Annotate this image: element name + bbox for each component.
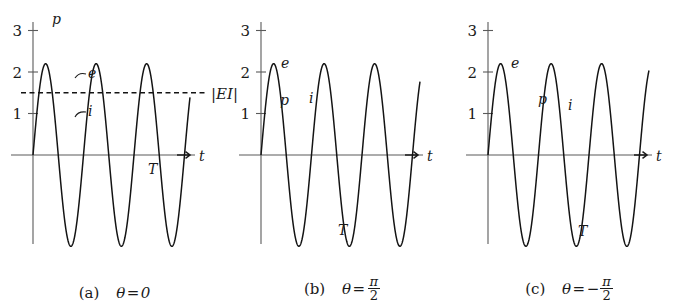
- y-tick-label: 1: [467, 105, 477, 123]
- panel-b-caption-index: (b): [304, 280, 325, 298]
- curve-label-i: i: [568, 97, 572, 113]
- period-label-T: T: [338, 222, 349, 238]
- y-tick-label: 2: [12, 64, 22, 82]
- y-tick-label: 2: [240, 64, 250, 82]
- panel-c-theta-numerator: π: [600, 275, 613, 289]
- curve-label-i: i: [88, 103, 92, 119]
- curve-label-p: p: [52, 11, 61, 27]
- panel-a-caption-index: (a): [79, 284, 100, 302]
- y-tick-label: 3: [467, 22, 477, 40]
- panel-a-caption: (a) θ = 0: [0, 284, 229, 302]
- power-waveform-figure: t123|EI|peiT (a) θ = 0 t123epiT (b) θ = …: [0, 0, 686, 308]
- panel-c-theta-sign: −: [587, 280, 600, 298]
- t-axis-label: t: [199, 148, 205, 164]
- t-axis-arrow-icon: [634, 152, 647, 159]
- y-tick-label: 1: [12, 105, 22, 123]
- panel-b-theta-fraction: π2: [368, 275, 381, 303]
- power-shaded-area: [0, 0, 229, 262]
- panel-c-caption-index: (c): [525, 280, 545, 298]
- t-axis-arrow-icon: [405, 152, 418, 159]
- panel-b-caption: (b) θ = π2: [228, 275, 457, 303]
- panel-b-caption-theta: θ = π2: [342, 280, 381, 298]
- panel-c-caption: (c) θ = −π2: [455, 275, 684, 303]
- period-label-T: T: [578, 223, 589, 239]
- period-label-T: T: [148, 161, 159, 177]
- curve-label-e: e: [511, 55, 519, 71]
- y-tick-label: 3: [240, 22, 250, 40]
- t-axis-arrow-icon: [177, 152, 190, 159]
- panel-a-theta-value: 0: [141, 284, 151, 302]
- panel-b-theta-denominator: 2: [368, 289, 381, 302]
- curve-label-p: p: [280, 92, 289, 108]
- t-axis-label: t: [656, 148, 662, 164]
- y-tick-label: 3: [12, 22, 22, 40]
- panel-c-theta-fraction: π2: [600, 275, 613, 303]
- panel-c-theta-denominator: 2: [600, 289, 613, 302]
- panel-a-plot: t123|EI|peiT: [0, 0, 229, 262]
- curve-label-e: e: [88, 65, 96, 81]
- panel-a: t123|EI|peiT (a) θ = 0: [0, 0, 229, 308]
- curve-label-leader-i: [75, 112, 86, 117]
- t-axis-label: t: [427, 148, 433, 164]
- curve-label-leader-e: [75, 74, 86, 79]
- panel-a-caption-theta: θ = 0: [116, 284, 150, 302]
- curve-label-i: i: [309, 90, 313, 106]
- panel-b-theta-numerator: π: [368, 275, 381, 289]
- panel-c: t123epiT (c) θ = −π2: [455, 0, 684, 308]
- curve-label-e: e: [281, 55, 289, 71]
- y-tick-label: 2: [467, 64, 477, 82]
- y-tick-label: 1: [240, 105, 250, 123]
- curve-label-p: p: [538, 91, 547, 107]
- panel-b: t123epiT (b) θ = π2: [228, 0, 457, 308]
- panel-c-caption-theta: θ = −π2: [562, 280, 614, 298]
- panel-c-plot: t123epiT: [455, 0, 686, 262]
- panel-b-plot: t123epiT: [228, 0, 457, 262]
